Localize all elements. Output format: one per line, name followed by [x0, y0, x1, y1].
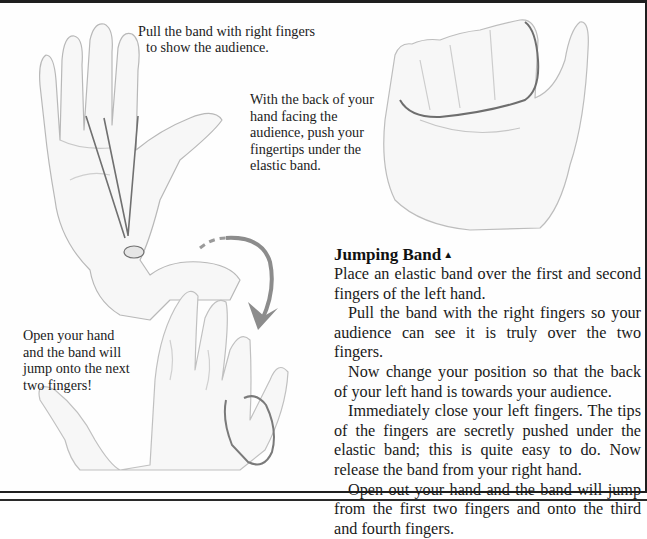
- band-pinch: [124, 246, 144, 258]
- paragraph-5: Open out your hand and the band will jum…: [334, 481, 641, 539]
- article-body: Place an elastic band over the first and…: [334, 265, 641, 539]
- paragraph-4: Immediately close your left fingers. The…: [334, 402, 641, 480]
- caption-pull-band: Pull the band with right fingers to show…: [138, 6, 338, 72]
- paragraph-1: Place an elastic band over the first and…: [334, 265, 641, 304]
- paragraph-2: Pull the band with the right fingers so …: [334, 304, 641, 363]
- hand-fist-illustration: [384, 20, 589, 230]
- caption-pull-band-line2: to show the audience.: [138, 39, 338, 56]
- article-title-text: Jumping Band: [334, 245, 441, 264]
- difficulty-marker-icon: ▲: [443, 249, 453, 260]
- caption-back-of-hand: With the back of your hand facing the au…: [250, 91, 400, 174]
- paragraph-3: Now change your position so that the bac…: [334, 363, 641, 402]
- caption-pull-band-line1: Pull the band with right fingers: [138, 23, 315, 39]
- article-title: Jumping Band▲: [334, 245, 641, 265]
- article-jumping-band: Jumping Band▲ Place an elastic band over…: [334, 245, 641, 539]
- caption-open-hand: Open your hand and the band will jump on…: [23, 327, 143, 393]
